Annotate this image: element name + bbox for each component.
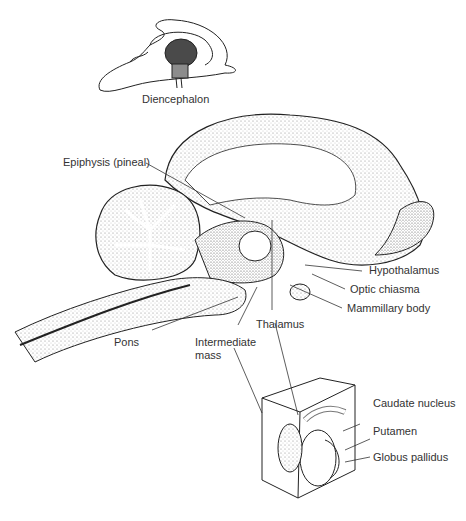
label-optic-chiasma: Optic chiasma [350, 283, 420, 296]
label-intermediate-mass-1: Intermediate [195, 336, 256, 349]
cerebellum [96, 185, 200, 280]
basal-ganglia-inset [262, 378, 355, 498]
label-caudate-nucleus: Caudate nucleus [373, 397, 456, 410]
pituitary-stalk [176, 78, 182, 88]
thalamus-oval [239, 231, 271, 261]
label-globus-pallidus: Globus pallidus [373, 451, 448, 464]
thalamus-dark-region [165, 39, 197, 67]
label-epiphysis: Epiphysis (pineal) [63, 156, 150, 169]
label-thalamus: Thalamus [256, 318, 304, 331]
label-pons: Pons [114, 336, 139, 349]
label-diencephalon: Diencephalon [142, 93, 209, 106]
brain-diagram [0, 0, 466, 521]
label-intermediate-mass-2: mass [195, 349, 221, 362]
label-putamen: Putamen [373, 425, 417, 438]
hypothalamus-grey-region [172, 64, 188, 78]
label-mammillary-body: Mammillary body [347, 302, 430, 315]
label-hypothalamus: Hypothalamus [369, 264, 439, 277]
